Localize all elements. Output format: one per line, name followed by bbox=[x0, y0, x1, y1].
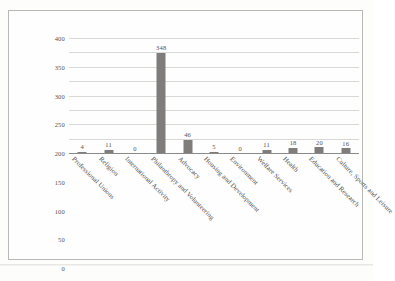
bar-slot: 11 bbox=[254, 38, 280, 153]
axis-baseline: 0 bbox=[69, 153, 359, 154]
bar[interactable] bbox=[315, 147, 324, 153]
bar-slot: 4 bbox=[69, 38, 95, 153]
bar-slot: 20 bbox=[306, 38, 332, 153]
bar-slot: 16 bbox=[333, 38, 359, 153]
chart-plot-area: 050100150200250300350400 411034846501118… bbox=[69, 38, 359, 153]
bar[interactable] bbox=[78, 152, 87, 153]
bar-value-label: 16 bbox=[342, 140, 349, 147]
x-axis-category-labels: Professional UnionsReligionInternational… bbox=[69, 155, 359, 255]
bar-value-label: 20 bbox=[316, 139, 323, 146]
bar-value-label: 348 bbox=[156, 44, 166, 51]
x-axis-category-label: Health bbox=[282, 155, 300, 173]
bar-value-label: 18 bbox=[290, 139, 297, 146]
bar-value-label: 0 bbox=[239, 145, 242, 152]
bar-series: 4110348465011182016 bbox=[69, 38, 359, 153]
bar[interactable] bbox=[262, 150, 271, 153]
bar[interactable] bbox=[341, 148, 350, 153]
y-axis-tick-label: 300 bbox=[55, 92, 65, 99]
bar[interactable] bbox=[104, 150, 113, 153]
bar[interactable] bbox=[289, 148, 298, 153]
x-axis-category-label: Advocacy bbox=[177, 155, 202, 180]
bar[interactable] bbox=[183, 140, 192, 153]
page-edge-shadow bbox=[0, 264, 373, 266]
bar[interactable] bbox=[157, 53, 166, 153]
bar-slot: 11 bbox=[95, 38, 121, 153]
bar-slot: 0 bbox=[227, 38, 253, 153]
figure-caption-remnant bbox=[57, 268, 357, 278]
bar-slot: 18 bbox=[280, 38, 306, 153]
y-axis-tick-label: 350 bbox=[55, 63, 65, 70]
bar-slot: 348 bbox=[148, 38, 174, 153]
y-axis-tick-label: 400 bbox=[55, 35, 65, 42]
bar-value-label: 46 bbox=[184, 131, 191, 138]
bar-slot: 5 bbox=[201, 38, 227, 153]
bar-value-label: 11 bbox=[105, 141, 112, 148]
y-axis-tick-label: 100 bbox=[55, 207, 65, 214]
bar-slot: 46 bbox=[174, 38, 200, 153]
bar-slot: 0 bbox=[122, 38, 148, 153]
figure-frame: 050100150200250300350400 411034846501118… bbox=[8, 10, 363, 260]
bar-value-label: 4 bbox=[80, 143, 83, 150]
y-axis-tick-label: 150 bbox=[55, 178, 65, 185]
x-axis-category-label: International Activity bbox=[124, 155, 172, 203]
x-axis-category-label: Religion bbox=[98, 155, 120, 177]
bar-value-label: 0 bbox=[133, 145, 136, 152]
bar-value-label: 5 bbox=[212, 143, 215, 150]
y-axis-tick-label: 50 bbox=[58, 236, 65, 243]
bar[interactable] bbox=[209, 152, 218, 153]
y-axis-tick-label: 250 bbox=[55, 121, 65, 128]
bar-value-label: 11 bbox=[263, 141, 270, 148]
x-axis-category-label: Education and Research bbox=[309, 155, 362, 208]
y-axis-tick-label: 200 bbox=[55, 150, 65, 157]
